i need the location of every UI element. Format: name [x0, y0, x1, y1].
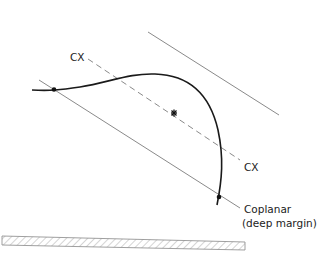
start-point	[52, 87, 57, 92]
diagram-canvas: CX CX Coplanar (deep margin)	[0, 0, 317, 263]
center-star-icon	[171, 110, 177, 117]
upper-parallel-line	[148, 32, 279, 115]
cx-label-top: CX	[70, 51, 85, 63]
lower-parallel-line	[39, 80, 240, 208]
end-point	[217, 195, 222, 200]
hatched-surface	[2, 236, 245, 250]
coplanar-label: Coplanar	[244, 203, 292, 215]
cx-label-bottom: CX	[244, 161, 259, 173]
deep-margin-label: (deep margin)	[242, 217, 317, 229]
